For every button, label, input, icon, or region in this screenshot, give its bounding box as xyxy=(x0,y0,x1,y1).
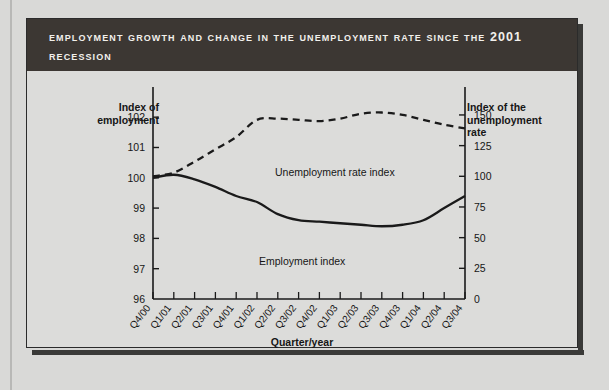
left-tick-101: 101 xyxy=(127,141,145,153)
series-label-employment: Employment index xyxy=(259,255,345,267)
right-tick-0: 0 xyxy=(474,293,480,305)
x-tick-Q3-04: Q3/04 xyxy=(439,302,465,331)
left-tick-99: 99 xyxy=(133,202,145,214)
series-label-unemployment: Unemployment rate index xyxy=(275,166,395,178)
x-tick-Q2-03: Q2/03 xyxy=(335,302,361,331)
right-tick-150: 150 xyxy=(474,109,492,121)
x-tick-Q4-03: Q4/03 xyxy=(377,302,403,331)
left-tick-97: 97 xyxy=(133,263,145,275)
x-tick-Q1-03: Q1/03 xyxy=(314,302,340,331)
figure-shadow-bottom xyxy=(32,350,584,355)
x-tick-Q1-04: Q1/04 xyxy=(398,302,424,331)
right-tick-25: 25 xyxy=(474,262,486,274)
x-tick-Q3-03: Q3/03 xyxy=(356,302,382,331)
figure-title: Employment Growth and Change in the Unem… xyxy=(49,28,561,66)
right-tick-125: 125 xyxy=(474,140,492,152)
x-tick-Q2-01: Q2/01 xyxy=(169,302,195,331)
left-tick-98: 98 xyxy=(133,232,145,244)
figure-frame: Employment Growth and Change in the Unem… xyxy=(26,18,578,348)
line-chart: 969798991001011020255075100125150Q4/00Q1… xyxy=(27,71,579,349)
x-tick-Q4-01: Q4/01 xyxy=(210,302,236,331)
x-tick-Q4-02: Q4/02 xyxy=(294,302,320,331)
x-tick-Q3-01: Q3/01 xyxy=(190,302,216,331)
x-tick-Q2-02: Q2/02 xyxy=(252,302,278,331)
x-tick-Q4-00: Q4/00 xyxy=(127,302,153,331)
right-tick-75: 75 xyxy=(474,201,486,213)
left-tick-100: 100 xyxy=(127,172,145,184)
right-tick-50: 50 xyxy=(474,232,486,244)
left-tick-102: 102 xyxy=(127,111,145,123)
plot-area: Index of employment Index of the unemplo… xyxy=(27,71,577,347)
page-margin-rule xyxy=(10,0,12,390)
series-line-employment xyxy=(153,175,465,227)
x-tick-Q1-01: Q1/01 xyxy=(148,302,174,331)
x-tick-Q3-02: Q3/02 xyxy=(273,302,299,331)
x-tick-Q2-04: Q2/04 xyxy=(418,302,444,331)
right-tick-100: 100 xyxy=(474,170,492,182)
x-axis-title: Quarter/year xyxy=(27,336,577,348)
x-tick-Q1-02: Q1/02 xyxy=(231,302,257,331)
figure-title-bar: Employment Growth and Change in the Unem… xyxy=(27,19,577,71)
